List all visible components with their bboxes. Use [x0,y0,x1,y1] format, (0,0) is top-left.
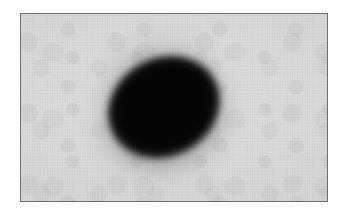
scan-plate-border[interactable] [20,13,328,202]
figure-root [0,0,348,216]
scan-plate-surface [21,14,327,201]
